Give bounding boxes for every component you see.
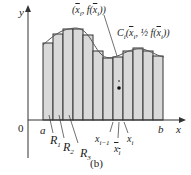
rectangles (43, 29, 163, 120)
a-label: a (40, 125, 46, 136)
xbar-i-label: xi (114, 144, 120, 157)
b-label: b (158, 124, 164, 135)
xi-label: xi (127, 134, 133, 147)
centroid-point (117, 86, 121, 90)
x-axis-label: x (176, 124, 181, 135)
region-label-r2: R2 (63, 141, 74, 156)
region-label-r1: R1 (50, 134, 61, 149)
top-point-label: (xi, f(xi)) (72, 5, 106, 18)
y-axis-arrow-icon (25, 5, 31, 12)
xi-minus-1-label: xi−1 (95, 134, 110, 147)
figure-caption: (b) (90, 158, 103, 169)
riemann-diagram: y x 0 a b R1 R2 R3 xi−1 xi xi (xi, f(xi)… (0, 0, 191, 175)
y-axis-label: y (19, 7, 24, 18)
origin-label: 0 (18, 123, 24, 134)
centroid-label: Ci(xi, ½ f(xi)) (117, 28, 170, 41)
